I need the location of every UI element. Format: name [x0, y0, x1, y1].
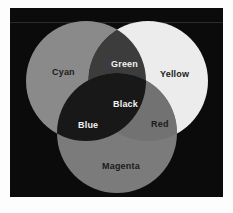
venn-label-red: Red — [151, 120, 169, 129]
diagram-canvas: Cyan Yellow Magenta Green Red Blue Black — [10, 8, 223, 197]
venn-intersection-black — [57, 73, 177, 193]
scanline-artifact — [10, 22, 223, 23]
venn-diagram-screenshot: Cyan Yellow Magenta Green Red Blue Black — [0, 0, 233, 213]
venn-label-green: Green — [111, 60, 138, 69]
venn-label-magenta: Magenta — [102, 162, 140, 171]
venn-label-cyan: Cyan — [52, 68, 75, 77]
venn-label-yellow: Yellow — [160, 70, 189, 79]
venn-label-black: Black — [113, 100, 138, 109]
venn-label-blue: Blue — [78, 121, 98, 130]
